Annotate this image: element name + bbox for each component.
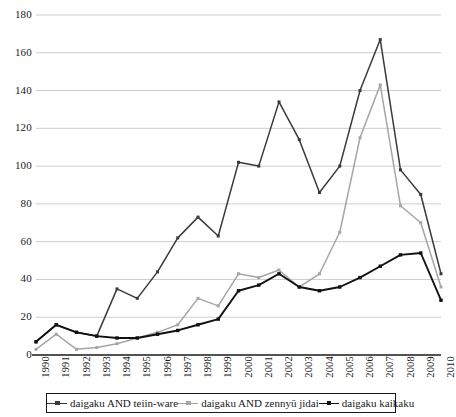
data-point-marker (34, 340, 37, 343)
data-point-marker (440, 272, 443, 275)
x-tick-label: 1993 (101, 356, 112, 396)
data-point-marker (419, 221, 422, 224)
legend-marker-icon (178, 399, 198, 408)
data-point-marker (176, 323, 179, 326)
y-tick-label: 100 (4, 160, 32, 171)
data-point-marker (75, 348, 78, 351)
plot-svg (0, 0, 447, 360)
gridlines (36, 15, 441, 317)
data-point-marker (278, 100, 281, 103)
plot-area (0, 0, 447, 360)
legend-item-1[interactable]: daigaku AND teiin-ware (47, 397, 178, 409)
data-point-marker (237, 161, 240, 164)
data-point-marker (439, 299, 442, 302)
data-point-marker (278, 269, 281, 272)
legend-item-3[interactable]: daigaku kaikaku (319, 397, 414, 409)
data-point-marker (115, 336, 118, 339)
data-point-marker (257, 283, 260, 286)
x-tick-label: 2003 (303, 356, 314, 396)
chart-legend: daigaku AND teiin-waredaigaku AND zennyū… (46, 393, 396, 413)
data-point-marker (399, 204, 402, 207)
data-point-marker (359, 136, 362, 139)
data-point-marker (197, 297, 200, 300)
data-point-marker (136, 297, 139, 300)
legend-marker-icon (47, 399, 67, 408)
data-point-marker (318, 289, 321, 292)
x-tick-label: 2009 (425, 356, 436, 396)
data-point-marker (75, 331, 78, 334)
series-line-2 (36, 85, 441, 349)
y-tick-label: 60 (4, 236, 32, 247)
data-point-marker (277, 272, 280, 275)
y-tick-label: 40 (4, 273, 32, 284)
x-tick-label: 1999 (222, 356, 233, 396)
data-point-marker (55, 333, 58, 336)
y-tick-label: 140 (4, 85, 32, 96)
data-point-marker (338, 231, 341, 234)
x-tick-label: 1996 (162, 356, 173, 396)
x-tick-label: 1991 (60, 356, 71, 396)
data-point-marker (379, 38, 382, 41)
data-point-marker (217, 317, 220, 320)
x-tick-label: 1995 (141, 356, 152, 396)
x-tick-label: 2007 (384, 356, 395, 396)
series-layer (34, 38, 442, 351)
data-point-marker (95, 346, 98, 349)
y-tick-label: 180 (4, 9, 32, 20)
x-tick-label: 1998 (202, 356, 213, 396)
x-tick-label: 1992 (81, 356, 92, 396)
x-tick-label: 2010 (445, 356, 456, 396)
data-point-marker (237, 272, 240, 275)
y-tick-label: 80 (4, 198, 32, 209)
data-point-marker (359, 89, 362, 92)
data-point-marker (338, 285, 341, 288)
data-point-marker (358, 276, 361, 279)
y-tick-label: 160 (4, 47, 32, 58)
data-point-marker (35, 348, 38, 351)
x-tick-label: 1990 (40, 356, 51, 396)
legend-marker-icon (319, 399, 339, 408)
data-point-marker (257, 276, 260, 279)
x-tick-label: 2002 (283, 356, 294, 396)
data-point-marker (95, 334, 98, 337)
data-point-marker (399, 253, 402, 256)
x-tick-label: 2000 (243, 356, 254, 396)
data-point-marker (116, 342, 119, 345)
x-tick-label: 1997 (182, 356, 193, 396)
data-point-marker (176, 329, 179, 332)
data-point-marker (196, 323, 199, 326)
data-point-marker (338, 165, 341, 168)
x-tick-label: 2006 (364, 356, 375, 396)
data-point-marker (237, 289, 240, 292)
data-point-marker (379, 83, 382, 86)
legend-label: daigaku AND zennyū jidai (201, 397, 319, 409)
data-point-marker (136, 336, 139, 339)
data-point-marker (116, 287, 119, 290)
data-point-marker (156, 270, 159, 273)
data-point-marker (419, 193, 422, 196)
x-tick-label: 2004 (324, 356, 335, 396)
x-tick-label: 1994 (121, 356, 132, 396)
data-point-marker (298, 138, 301, 141)
data-point-marker (217, 235, 220, 238)
data-point-marker (176, 236, 179, 239)
y-tick-label: 120 (4, 122, 32, 133)
data-point-marker (379, 265, 382, 268)
data-point-marker (419, 251, 422, 254)
data-point-marker (217, 304, 220, 307)
data-point-marker (257, 165, 260, 168)
data-point-marker (399, 168, 402, 171)
legend-label: daigaku AND teiin-ware (70, 397, 178, 409)
legend-label: daigaku kaikaku (342, 397, 414, 409)
x-tick-label: 2001 (263, 356, 274, 396)
y-tick-label: 20 (4, 311, 32, 322)
legend-item-2[interactable]: daigaku AND zennyū jidai (178, 397, 319, 409)
x-tick-label: 2005 (344, 356, 355, 396)
data-point-marker (156, 333, 159, 336)
data-point-marker (318, 191, 321, 194)
data-point-marker (440, 286, 443, 289)
data-point-marker (197, 216, 200, 219)
data-point-marker (318, 272, 321, 275)
y-axis: 020406080100120140160180 (0, 0, 32, 360)
